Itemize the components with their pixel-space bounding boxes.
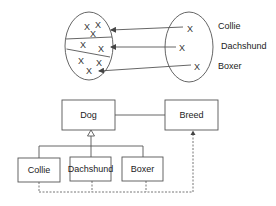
class-boxer-label: Boxer — [131, 164, 155, 174]
partition-line-1 — [66, 37, 113, 39]
left-element: X — [80, 40, 86, 50]
left-element: X — [98, 44, 104, 54]
mapping-arrow-boxer — [99, 65, 191, 71]
dependency-arrow-icon — [191, 131, 196, 136]
class-breed[interactable]: Breed — [165, 100, 218, 130]
class-dog-label: Dog — [80, 110, 97, 120]
left-element: X — [90, 29, 96, 39]
right-element-dachshund: X — [179, 43, 185, 53]
class-collie[interactable]: Collie — [18, 158, 60, 182]
class-breed-label: Breed — [179, 110, 203, 120]
diagram-canvas: X X X X X X X X X X X Collie Dachshund B… — [0, 0, 276, 206]
mapping-arrow-collie — [111, 27, 183, 30]
right-element-boxer: X — [194, 62, 200, 72]
class-collie-label: Collie — [28, 165, 51, 175]
label-dachshund: Dachshund — [221, 41, 267, 51]
class-dog[interactable]: Dog — [62, 100, 115, 130]
class-dachshund-label: Dachshund — [68, 164, 114, 174]
class-boxer[interactable]: Boxer — [122, 157, 163, 181]
left-set: X X X X X X X X — [65, 12, 113, 80]
label-boxer: Boxer — [218, 61, 242, 71]
right-set: X X X Collie Dachshund Boxer — [165, 12, 267, 82]
left-element: X — [86, 66, 92, 76]
generalization-arrow-icon — [88, 130, 95, 136]
left-element: X — [96, 58, 102, 68]
left-element: X — [78, 56, 84, 66]
label-collie: Collie — [218, 21, 241, 31]
right-element-collie: X — [187, 24, 193, 34]
class-dachshund[interactable]: Dachshund — [68, 157, 114, 181]
